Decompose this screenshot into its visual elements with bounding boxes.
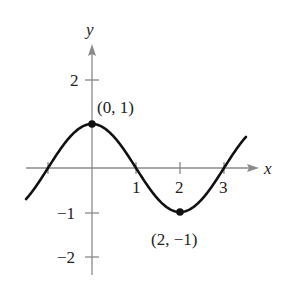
graph: y x 2 −1 −2 1 2 3 (0, 1) (2, −1) (0, 0, 285, 285)
x-tick-label-1: 1 (132, 178, 141, 197)
y-axis-label: y (84, 20, 94, 39)
point-max-label: (0, 1) (97, 98, 134, 117)
x-tick-label-2: 2 (175, 178, 184, 197)
x-tick-label-3: 3 (219, 178, 228, 197)
axes (26, 44, 259, 275)
y-tick-label-2: 2 (70, 71, 79, 90)
x-axis-label: x (263, 159, 272, 178)
y-tick-label-neg2: −2 (57, 248, 75, 267)
y-tick-label-neg1: −1 (57, 204, 75, 223)
point-max (88, 120, 96, 128)
point-min-label: (2, −1) (151, 230, 197, 249)
point-min (176, 208, 184, 216)
